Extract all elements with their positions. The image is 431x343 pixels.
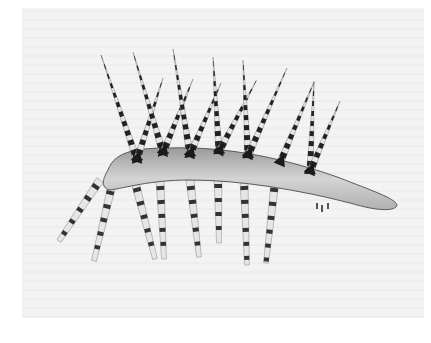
spine	[95, 53, 143, 164]
leg	[56, 178, 104, 243]
leg	[186, 180, 203, 258]
leg	[214, 178, 223, 243]
spine	[167, 48, 196, 158]
small-appendage	[316, 203, 329, 212]
leg	[156, 180, 168, 259]
leg	[240, 180, 251, 265]
hallucigenia-illustration	[0, 0, 431, 343]
legs-group	[56, 178, 279, 265]
leg	[131, 181, 159, 260]
leg	[262, 182, 279, 264]
